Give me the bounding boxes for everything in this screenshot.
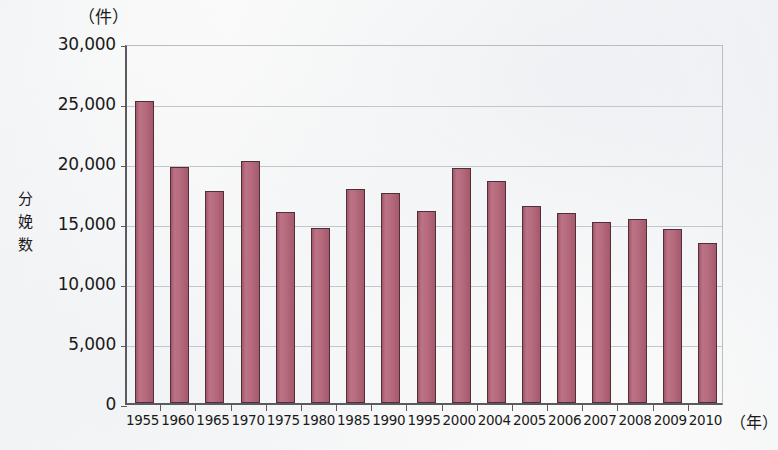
y-axis-tick-labels: 30,00025,00020,00015,00010,0005,0000 [0, 45, 116, 405]
bar [663, 229, 682, 403]
plot-area [125, 45, 723, 405]
bar [170, 167, 189, 403]
x-axis-tick [582, 405, 583, 411]
x-axis-tick-label: 1960 [160, 412, 195, 428]
bar [698, 243, 717, 403]
x-axis-tick [231, 405, 232, 411]
x-axis-tick-label: 2006 [547, 412, 582, 428]
x-axis-tick-label: 2007 [582, 412, 617, 428]
bar [205, 191, 224, 403]
bar [592, 222, 611, 403]
x-axis-tick [336, 405, 337, 411]
bar [346, 189, 365, 403]
bar [381, 193, 400, 403]
bar [452, 168, 471, 403]
x-axis-tick [406, 405, 407, 411]
x-axis-tick-label: 1980 [301, 412, 336, 428]
x-axis-tick [301, 405, 302, 411]
x-axis-tick [371, 405, 372, 411]
bar [135, 101, 154, 403]
x-axis-unit-label: （年） [730, 409, 778, 433]
x-axis-tick-label: 1965 [195, 412, 230, 428]
x-axis-tick [477, 405, 478, 411]
y-axis-tick-label: 30,000 [8, 34, 116, 54]
x-axis-tick [653, 405, 654, 411]
x-axis-ticks [125, 405, 723, 411]
x-axis-tick-label: 2004 [477, 412, 512, 428]
x-axis-tick-label: 1955 [125, 412, 160, 428]
x-axis-tick-label: 1990 [371, 412, 406, 428]
bar [276, 212, 295, 403]
y-axis-tick-label: 10,000 [8, 274, 116, 294]
y-axis-tick-label: 20,000 [8, 154, 116, 174]
x-axis-tick-label: 1975 [266, 412, 301, 428]
y-axis-tick-label: 25,000 [8, 94, 116, 114]
x-axis-tick [442, 405, 443, 411]
x-axis-tick [160, 405, 161, 411]
x-axis-tick [617, 405, 618, 411]
x-axis-tick-label: 2000 [442, 412, 477, 428]
bar [557, 213, 576, 403]
x-axis-tick-label: 2010 [688, 412, 723, 428]
x-axis-tick-label: 2009 [653, 412, 688, 428]
bar [311, 228, 330, 403]
x-axis-tick-label: 1985 [336, 412, 371, 428]
x-axis-tick-label: 1995 [406, 412, 441, 428]
x-axis-tick [266, 405, 267, 411]
bar-chart: （件） 分 娩 数 30,00025,00020,00015,00010,000… [0, 0, 778, 450]
y-axis-tick-label: 0 [8, 394, 116, 414]
bar [417, 211, 436, 403]
x-axis-tick-label: 2008 [617, 412, 652, 428]
bar [241, 161, 260, 403]
y-axis-tick-label: 5,000 [8, 334, 116, 354]
x-axis-tick [547, 405, 548, 411]
bar-series [127, 46, 722, 403]
x-axis-tick [688, 405, 689, 411]
bar [522, 206, 541, 403]
x-axis-tick-label: 1970 [231, 412, 266, 428]
bar [628, 219, 647, 403]
y-axis-unit-label: （件） [78, 3, 129, 28]
y-axis-tick-label: 15,000 [8, 214, 116, 234]
x-axis-tick [512, 405, 513, 411]
x-axis-tick [195, 405, 196, 411]
x-axis-tick-labels: 1955196019651970197519801985199019952000… [0, 412, 778, 434]
bar [487, 181, 506, 403]
x-axis-tick-label: 2005 [512, 412, 547, 428]
